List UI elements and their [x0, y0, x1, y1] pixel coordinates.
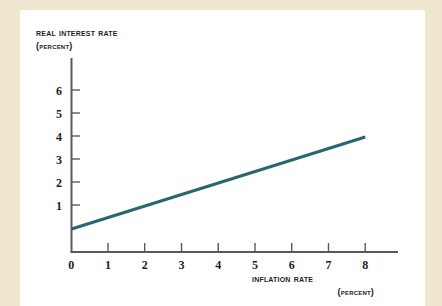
x-tick-label: 2 — [142, 258, 148, 272]
x-tick-marks — [108, 243, 365, 252]
y-tick-label: 1 — [56, 199, 62, 213]
y-tick-marks — [72, 90, 81, 205]
x-tick-label: 1 — [105, 258, 111, 272]
x-tick-label: 3 — [179, 258, 185, 272]
y-tick-labels: 6 5 4 3 2 1 — [56, 84, 62, 213]
x-tick-label: 0 — [68, 258, 74, 272]
x-tick-labels: 0 1 2 3 4 5 6 7 8 — [68, 258, 368, 272]
plot-area: Real interest rate (percent) Inflation r… — [20, 10, 425, 306]
x-tick-label: 4 — [215, 258, 221, 272]
y-tick-label: 3 — [56, 153, 62, 167]
y-tick-label: 2 — [56, 176, 62, 190]
y-tick-label: 6 — [56, 84, 62, 98]
y-tick-label: 4 — [56, 130, 62, 144]
figure-card: Real interest rate (percent) Inflation r… — [20, 10, 425, 306]
chart-svg: 6 5 4 3 2 1 0 1 2 — [20, 10, 425, 306]
data-series-line — [72, 137, 366, 229]
x-tick-label: 8 — [362, 258, 368, 272]
x-tick-label: 7 — [326, 258, 332, 272]
x-tick-label: 6 — [289, 258, 295, 272]
x-tick-label: 5 — [252, 258, 258, 272]
y-tick-label: 5 — [56, 107, 62, 121]
